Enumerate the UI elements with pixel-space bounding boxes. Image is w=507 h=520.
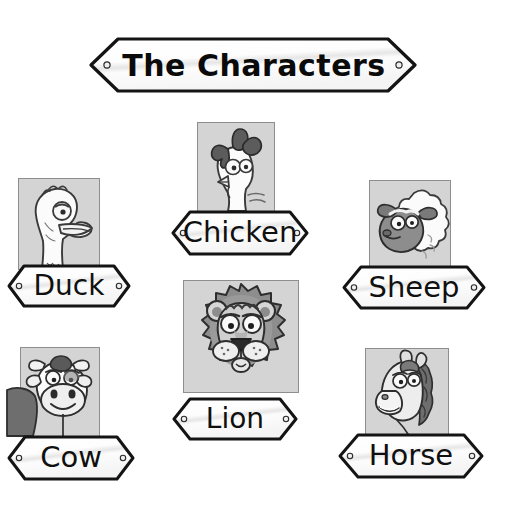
cow-sign[interactable]: Cow: [6, 434, 136, 482]
rivet-icon: [104, 62, 110, 68]
cow-label: Cow: [40, 440, 102, 474]
lion-sign[interactable]: Lion: [171, 396, 299, 442]
horse-frame: [365, 348, 449, 438]
sheep-portrait-icon: [370, 181, 450, 269]
rivet-icon: [120, 455, 125, 460]
cow-frame: [20, 347, 100, 437]
horse-label: Horse: [369, 438, 453, 472]
duck-portrait-icon: [19, 179, 99, 269]
horse-sign[interactable]: Horse: [337, 432, 485, 480]
characters-poster: The Characters Duck: [0, 0, 507, 520]
rivet-icon: [351, 285, 356, 290]
rivet-icon: [116, 283, 121, 288]
sheep-sign[interactable]: Sheep: [341, 264, 487, 311]
chicken-label: Chicken: [183, 215, 298, 249]
page-title: The Characters: [122, 48, 385, 83]
lion-label: Lion: [206, 402, 264, 435]
rivet-icon: [16, 283, 21, 288]
rivet-icon: [396, 62, 402, 68]
sheep-frame: [369, 180, 451, 270]
rivet-icon: [471, 285, 476, 290]
duck-sign[interactable]: Duck: [6, 263, 132, 309]
chicken-sign[interactable]: Chicken: [170, 209, 310, 257]
chicken-frame: [197, 122, 275, 212]
rivet-icon: [469, 453, 474, 458]
duck-frame: [18, 178, 100, 270]
cow-portrait-icon: [21, 348, 99, 436]
rivet-icon: [16, 455, 21, 460]
rivet-icon: [181, 416, 186, 421]
horse-portrait-icon: [366, 349, 448, 437]
chicken-portrait-icon: [198, 123, 274, 211]
lion-portrait-icon: [184, 281, 298, 392]
sheep-label: Sheep: [369, 270, 460, 304]
lion-frame: [183, 280, 299, 393]
rivet-icon: [347, 453, 352, 458]
title-sign: The Characters: [88, 36, 418, 94]
duck-label: Duck: [34, 269, 106, 302]
rivet-icon: [283, 416, 288, 421]
